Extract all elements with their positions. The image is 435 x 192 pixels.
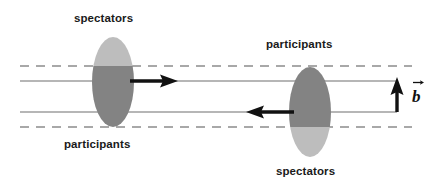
- vector-overbar-arrow-icon: [413, 79, 424, 86]
- left-nucleus: [92, 37, 134, 127]
- label-participants-bottom-left: participants: [64, 138, 130, 150]
- right-nucleus: [289, 67, 331, 157]
- label-spectators-bottom-right: spectators: [276, 165, 335, 177]
- collision-geometry-canvas: [0, 0, 435, 192]
- impact-parameter-symbol: b: [412, 88, 421, 105]
- arrow-right-icon: [130, 75, 178, 88]
- arrow-left-icon: [246, 106, 294, 119]
- impact-parameter-label: b: [412, 80, 421, 105]
- collision-geometry-figure: spectators participants participants spe…: [0, 0, 435, 192]
- label-spectators-top-left: spectators: [74, 12, 133, 24]
- label-participants-top-right: participants: [266, 38, 332, 50]
- impact-parameter-arrow-icon: [391, 77, 404, 112]
